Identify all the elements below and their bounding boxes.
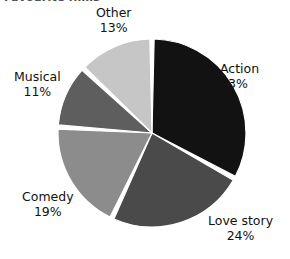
pie-label-other-name: Other xyxy=(96,6,132,21)
pie-label-action: Action 33% xyxy=(220,62,259,92)
pie-label-action-name: Action xyxy=(220,62,259,77)
pie-label-other-value: 13% xyxy=(96,21,132,36)
pie-label-comedy-value: 19% xyxy=(22,205,74,220)
pie-label-love-story-name: Love story xyxy=(208,214,273,229)
pie-slice-group xyxy=(58,39,246,227)
pie-label-comedy-name: Comedy xyxy=(22,190,74,205)
pie-label-comedy: Comedy 19% xyxy=(22,190,74,220)
pie-label-musical-value: 11% xyxy=(14,85,61,100)
pie-label-love-story-value: 24% xyxy=(208,229,273,244)
pie-label-action-value: 33% xyxy=(220,77,259,92)
pie-label-musical-name: Musical xyxy=(14,70,61,85)
pie-chart-figure: Favourite films Other 13% Action 33% Lov… xyxy=(0,0,290,259)
pie-label-other: Other 13% xyxy=(96,6,132,36)
pie-label-love-story: Love story 24% xyxy=(208,214,273,244)
pie-label-musical: Musical 11% xyxy=(14,70,61,100)
